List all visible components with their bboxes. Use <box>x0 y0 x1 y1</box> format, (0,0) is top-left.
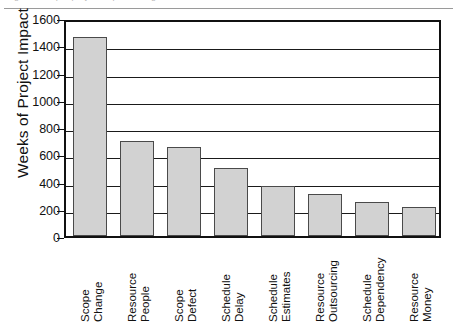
bar <box>402 207 436 236</box>
y-tick-mark <box>57 129 64 130</box>
y-tick-mark <box>57 184 64 185</box>
plot-area <box>64 20 441 238</box>
x-category-label-line: Dependency <box>374 257 387 322</box>
x-category-label-line: People <box>139 286 152 322</box>
x-category-label-line: Schedule <box>361 274 374 322</box>
bar <box>167 147 201 236</box>
bar <box>308 194 342 236</box>
x-axis-category-labels: ScopeChangeResourcePeopleScopeDefectSche… <box>64 240 441 326</box>
x-category-label-line: Resource <box>314 273 327 322</box>
bar <box>73 37 107 236</box>
x-category-label-line: Resource <box>408 273 421 322</box>
x-category-label-line: Resource <box>126 273 139 322</box>
y-tick-mark <box>57 156 64 157</box>
y-tick-mark <box>57 20 64 21</box>
x-category-label-line: Schedule <box>220 274 233 322</box>
bar-series <box>66 22 439 236</box>
x-category-label-line: Outsourcing <box>327 260 340 322</box>
x-category-label-line: Scope <box>79 289 92 322</box>
x-category-label-line: Estimates <box>280 272 293 323</box>
bar <box>261 186 295 236</box>
y-tick-mark <box>57 211 64 212</box>
bar <box>214 168 248 236</box>
x-category-label-line: Schedule <box>267 274 280 322</box>
y-tick-mark <box>57 102 64 103</box>
y-axis-tick-marks <box>0 20 64 238</box>
y-tick-mark <box>57 47 64 48</box>
x-category-label-line: Delay <box>233 293 246 322</box>
x-category-label-line: Defect <box>186 289 199 322</box>
y-tick-mark <box>57 75 64 76</box>
figure-root: Figure 1. Top 8 project impact categorie… <box>0 0 457 326</box>
x-category-label-line: Scope <box>173 289 186 322</box>
bar <box>120 141 154 236</box>
x-category-label-line: Money <box>421 287 434 322</box>
y-tick-mark <box>57 238 64 239</box>
horizontal-rule <box>4 8 453 9</box>
bar <box>355 202 389 236</box>
x-category-label-line: Change <box>92 282 105 322</box>
